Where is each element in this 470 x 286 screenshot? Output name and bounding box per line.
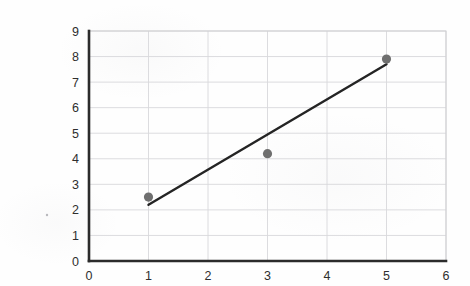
- x-tick-label-5: 5: [383, 269, 390, 283]
- y-tick-label-0: 0: [72, 255, 79, 269]
- data-point-1: [144, 193, 153, 202]
- scan-artifact-speck: [46, 214, 48, 216]
- scatter-plot-figure: 0123456789 0123456: [0, 0, 470, 286]
- x-tick-label-4: 4: [324, 269, 331, 283]
- chart-canvas: 0123456789 0123456: [0, 0, 470, 286]
- data-point-3: [382, 55, 391, 64]
- y-tick-label-5: 5: [72, 127, 79, 141]
- y-tick-label-3: 3: [72, 178, 79, 192]
- y-tick-label-9: 9: [72, 25, 79, 39]
- x-tick-label-1: 1: [145, 269, 152, 283]
- x-tick-label-0: 0: [86, 269, 93, 283]
- vertical-gridlines: [149, 31, 447, 261]
- x-tick-label-6: 6: [443, 269, 450, 283]
- y-tick-label-2: 2: [72, 203, 79, 217]
- y-axis-tick-labels: 0123456789: [72, 25, 79, 269]
- x-axis-tick-labels: 0123456: [86, 269, 450, 283]
- y-tick-label-4: 4: [72, 152, 79, 166]
- y-tick-label-6: 6: [72, 101, 79, 115]
- x-tick-label-3: 3: [264, 269, 271, 283]
- y-tick-label-7: 7: [72, 76, 79, 90]
- y-tick-label-8: 8: [72, 50, 79, 64]
- data-point-2: [263, 149, 272, 158]
- y-tick-label-1: 1: [72, 229, 79, 243]
- x-tick-label-2: 2: [205, 269, 212, 283]
